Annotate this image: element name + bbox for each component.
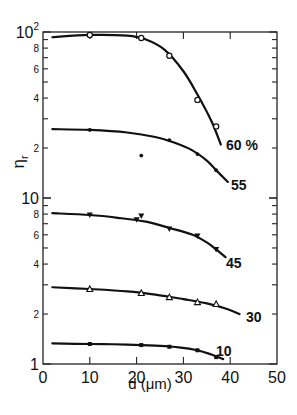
y-tick-label: 102 [16,21,40,41]
series-label: 30 [246,309,262,325]
chart: 0102030405012468102468102 60 %55453010 d… [0,0,297,415]
y-tick-label: 6 [33,64,39,75]
series-curve [52,213,225,257]
y-tick-label: 2 [33,309,39,320]
series-60: 60 % [52,32,258,153]
series-label: 55 [231,177,247,193]
marker-open-triangle [213,301,219,307]
x-tick-label: 50 [268,369,286,386]
y-tick-label: 1 [30,356,39,373]
x-axis-label: d (μm) [128,375,172,392]
plot-axes: 0102030405012468102468102 [16,21,286,386]
series-45: 45 [52,212,241,271]
marker-filled-square [139,343,143,347]
series-30: 30 [52,286,261,325]
y-tick-label: 10 [21,190,39,207]
marker-open-triangle [138,290,144,296]
marker-down-triangle [138,213,144,219]
marker-open-circle [139,35,144,40]
series-label: 60 % [226,137,258,153]
series-curve [52,287,239,314]
marker-filled-circle [196,152,200,156]
marker-open-circle [167,53,172,58]
marker-filled-circle [167,138,171,142]
y-tick-label: 4 [33,93,39,104]
y-tick-label: 2 [33,143,39,154]
y-tick-label: 4 [33,259,39,270]
y-tick-label: 8 [33,209,39,220]
y-tick-label: 6 [33,230,39,241]
marker-open-triangle [166,294,172,300]
series-label: 45 [226,255,242,271]
x-tick-label: 0 [39,369,48,386]
marker-filled-square [195,348,199,352]
series-curve [52,35,220,145]
x-tick-label: 10 [81,369,99,386]
series-10: 10 [52,342,231,359]
series-label: 10 [216,343,232,359]
marker-open-triangle [194,299,200,305]
x-tick-label: 40 [221,369,239,386]
plot-frame [43,32,277,364]
marker-open-circle [87,32,92,37]
marker-open-circle [214,124,219,129]
marker-filled-circle [214,168,218,172]
plot-series: 60 %55453010 [52,32,261,359]
marker-open-triangle [87,286,93,292]
marker-filled-circle [139,154,143,158]
marker-filled-square [167,345,171,349]
marker-filled-square [88,342,92,346]
svg-text:ηr: ηr [9,155,30,168]
x-tick-label: 30 [175,369,193,386]
marker-open-circle [195,97,200,102]
marker-filled-circle [88,128,92,132]
y-axis-label: ηr [9,155,30,168]
y-tick-label: 8 [33,43,39,54]
